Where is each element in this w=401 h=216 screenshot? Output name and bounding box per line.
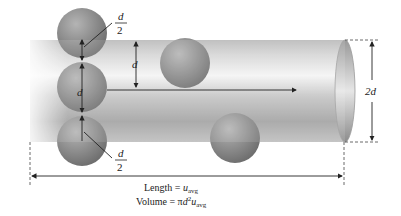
label-half-d-top-den: 2 [117,24,123,36]
label-half-d-bottom-den: 2 [117,161,123,173]
tube-spheres-diagram: d d 2 d 2 d 2d Length = uavg Volume = πd… [0,0,401,216]
label-d-spacing: d [132,58,138,70]
label-d-sphere: d [77,86,83,98]
label-2d: 2d [365,85,377,97]
length-caption: Length = uavg [144,182,199,195]
label-half-d-bottom-num: d [118,147,124,159]
volume-caption: Volume = πd2uavg [136,195,207,209]
label-half-d-top-num: d [118,10,124,22]
